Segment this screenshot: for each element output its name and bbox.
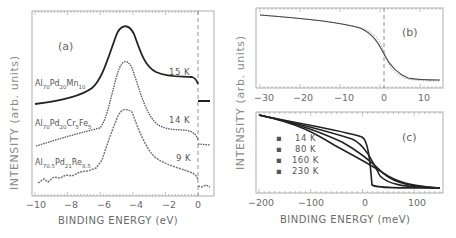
sample-label-crfe: Al70Pd20Cr5Fe5 [35, 119, 92, 130]
panel-b-frame [256, 8, 443, 88]
xtick-b: 10 [418, 92, 430, 103]
xtick-c: −100 [298, 197, 324, 208]
curve-b-fit [260, 15, 440, 80]
xtick-b: −10 [334, 92, 354, 103]
legend-14k: ▪ 14 K [276, 133, 316, 143]
sample-label-re: Al70.5Pd21Re8.5 [35, 158, 91, 169]
xtick-c: 100 [408, 197, 426, 208]
legend-230k: ▪ 230 K [276, 166, 319, 176]
sample-label-mn: Al70Pd20Mn10 [35, 79, 86, 90]
x-axis-label-a: BINDING ENERGY (eV) [58, 215, 178, 226]
xtick-c: −200 [248, 197, 274, 208]
y-axis-label-a: INTENSITY (arb. units) [8, 55, 21, 190]
curve-b-dotted [260, 15, 440, 81]
panel-label-a: (a) [58, 40, 73, 53]
panel-label-c: (c) [402, 131, 417, 144]
xtick-a: 0 [195, 199, 201, 210]
temp-label-15k: 15 K [169, 67, 190, 77]
xtick-b: −30 [254, 92, 274, 103]
panel-label-b: (b) [402, 26, 418, 39]
legend-160k: ▪ 160 K [276, 155, 319, 165]
xtick-a: −6 [97, 199, 111, 210]
xtick-a: −4 [129, 199, 143, 210]
xtick-a: −2 [162, 199, 176, 210]
temp-label-14k: 14 K [169, 115, 190, 125]
xtick-b: 0 [381, 92, 387, 103]
curve-mn [35, 26, 210, 104]
y-axis-label-bc: INTENSITY (arb. units) [234, 35, 247, 170]
xtick-b: −20 [293, 92, 313, 103]
xtick-c: 0 [362, 197, 368, 208]
xtick-a: −10 [26, 199, 46, 210]
legend-80k: ▪ 80 K [276, 144, 316, 154]
x-axis-label-c: BINDING ENERGY (meV) [280, 214, 411, 225]
xtick-a: −8 [64, 199, 78, 210]
temp-label-9k: 9 K [176, 153, 191, 163]
